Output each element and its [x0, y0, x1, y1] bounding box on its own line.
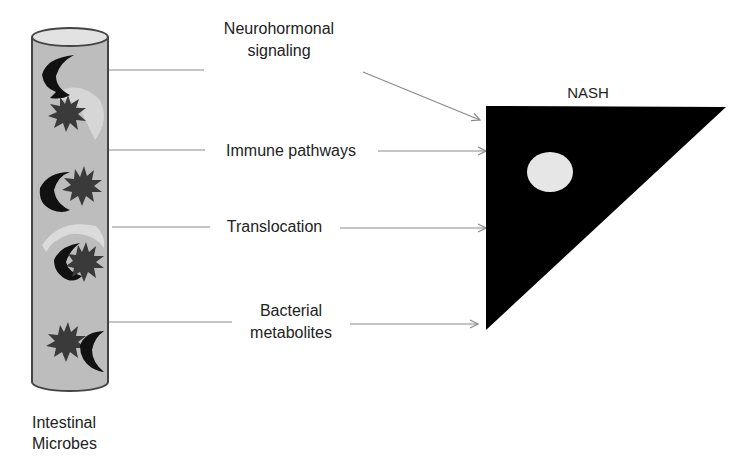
- pathway-label-neurohormonal: Neurohormonal signaling: [205, 18, 353, 62]
- intestinal-microbes-caption: Intestinal Microbes: [32, 412, 97, 454]
- nash-title: NASH: [563, 82, 613, 104]
- pathway-label-immune: Immune pathways: [206, 140, 376, 162]
- nucleus-circle: [527, 152, 573, 192]
- diagram-canvas: [0, 0, 752, 464]
- pathway-label-metabolites: Bacterial metabolites: [236, 300, 346, 344]
- pathway-label-translocation: Translocation: [212, 216, 337, 238]
- pathway-connectors: [109, 70, 486, 324]
- nash-liver-shape: [486, 106, 726, 330]
